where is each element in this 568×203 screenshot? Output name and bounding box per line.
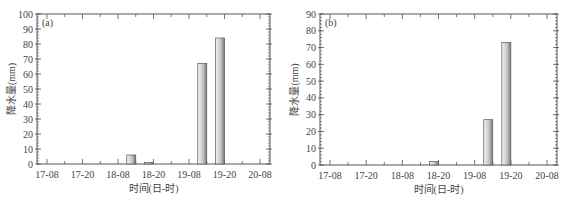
x-tick-label: 17-20 [354, 170, 377, 181]
y-tick-label: 80 [23, 39, 33, 50]
x-tick-label: 17-08 [318, 170, 341, 181]
y-tick-label: 30 [23, 114, 33, 125]
x-tick-label: 17-20 [71, 169, 94, 180]
x-tick-label: 19-08 [177, 169, 200, 180]
plot-frame [320, 14, 557, 165]
y-tick-label: 0 [28, 159, 33, 170]
bar-18-20 [430, 162, 439, 165]
y-tick-label: 60 [23, 69, 33, 80]
bar-19-14 [198, 64, 207, 165]
y-tick-label: 90 [306, 9, 316, 20]
x-tick-label: 19-20 [499, 170, 522, 181]
plot-frame [37, 14, 270, 164]
x-tick-label: 20-08 [248, 169, 271, 180]
x-tick-label: 17-08 [35, 169, 58, 180]
precipitation-chart-b: 010203040506070809017-0817-2018-0818-201… [284, 0, 568, 203]
bar-18-14 [127, 155, 136, 164]
precipitation-chart-a: 010203040506070809010017-0817-2018-0818-… [0, 0, 284, 203]
bar-18-20 [145, 163, 154, 165]
y-tick-label: 70 [306, 42, 316, 53]
x-tick-label: 19-08 [463, 170, 486, 181]
x-tick-label: 18-20 [142, 169, 165, 180]
x-tick-label: 19-20 [213, 169, 236, 180]
panel-label: (a) [42, 17, 53, 29]
y-tick-label: 50 [306, 76, 316, 87]
x-tick-label: 18-20 [427, 170, 450, 181]
x-axis-label: 时间(日-时) [129, 182, 179, 195]
y-tick-label: 10 [306, 143, 316, 154]
y-tick-label: 100 [18, 9, 33, 20]
y-tick-label: 50 [23, 84, 33, 95]
y-tick-label: 70 [23, 54, 33, 65]
y-tick-label: 60 [306, 59, 316, 70]
chart-a-canvas: 010203040506070809010017-0817-2018-0818-… [0, 0, 284, 203]
bar-19-14 [484, 120, 493, 165]
y-tick-label: 40 [306, 92, 316, 103]
x-tick-label: 18-08 [106, 169, 129, 180]
bar-19-20 [502, 43, 511, 165]
y-tick-label: 0 [311, 160, 316, 171]
y-tick-label: 10 [23, 144, 33, 155]
x-tick-label: 18-08 [391, 170, 414, 181]
y-tick-label: 90 [23, 24, 33, 35]
y-axis-label: 降水量(mm) [5, 63, 18, 115]
y-tick-label: 30 [306, 109, 316, 120]
y-tick-label: 80 [306, 25, 316, 36]
x-tick-label: 20-08 [535, 170, 558, 181]
y-tick-label: 20 [306, 126, 316, 137]
y-tick-label: 40 [23, 99, 33, 110]
y-axis-label: 降水量(mm) [288, 63, 301, 115]
chart-b-canvas: 010203040506070809017-0817-2018-0818-201… [284, 0, 568, 203]
y-tick-label: 20 [23, 129, 33, 140]
panel-label: (b) [325, 17, 337, 29]
x-axis-label: 时间(日-时) [414, 183, 464, 196]
bar-19-20 [216, 38, 225, 164]
